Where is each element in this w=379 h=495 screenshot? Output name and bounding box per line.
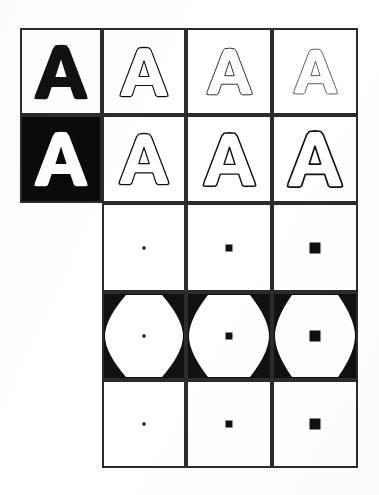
structuring-element-medium <box>186 203 272 292</box>
letter-a-glyph <box>116 44 172 100</box>
morphology-figure <box>0 0 379 495</box>
letter-a-glyph <box>290 46 341 97</box>
structuring-element-dot <box>226 333 233 340</box>
letter-a-glyph <box>30 41 92 103</box>
glyph-container <box>188 30 270 113</box>
glyph-container <box>188 117 270 201</box>
structuring-element-dot <box>310 419 321 430</box>
letter-a-outline-thin-1 <box>102 28 186 115</box>
glyph-container <box>22 117 100 201</box>
original-letter-a-solid <box>20 28 102 115</box>
glyph-container <box>274 117 356 201</box>
letter-a-outline-thin-2 <box>186 28 272 115</box>
structuring-element-dot <box>310 242 321 253</box>
structuring-element-small-repeat <box>102 380 186 468</box>
letter-a-outline-thin-3 <box>272 28 358 115</box>
letter-a-outline-dilated-1 <box>102 115 186 203</box>
structuring-element-dot <box>310 331 321 342</box>
structuring-element-dot <box>226 421 233 428</box>
structuring-element-dot <box>143 423 146 426</box>
structuring-element-large <box>272 203 358 292</box>
glyph-container <box>104 117 184 201</box>
glyph-container <box>104 30 184 113</box>
structuring-element-medium-repeat <box>186 380 272 468</box>
structuring-element-small <box>102 203 186 292</box>
glyph-container <box>274 30 356 113</box>
letter-a-glyph <box>199 129 260 190</box>
letter-a-glyph <box>203 45 256 98</box>
letter-a-glyph <box>283 127 347 191</box>
structuring-element-large-repeat <box>272 380 358 468</box>
glyph-container <box>22 30 100 113</box>
letter-a-glyph <box>115 130 173 188</box>
structuring-element-dot <box>143 246 146 249</box>
letter-a-outline-dilated-3 <box>272 115 358 203</box>
structuring-element-dot <box>226 244 233 251</box>
structuring-element-dot <box>143 335 146 338</box>
letter-a-outline-dilated-2 <box>186 115 272 203</box>
letter-a-glyph <box>30 128 92 190</box>
eroded-frame-small-with-structuring-element <box>102 292 186 380</box>
eroded-frame-large-with-structuring-element <box>272 292 358 380</box>
eroded-frame-medium-with-structuring-element <box>186 292 272 380</box>
inverted-letter-a-solid <box>20 115 102 203</box>
